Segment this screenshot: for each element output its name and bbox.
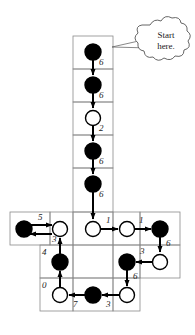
callout-line-1: Start xyxy=(149,30,183,40)
arrow-label-a1: 6 xyxy=(99,58,104,67)
arrow-label-a4: 6 xyxy=(99,157,104,166)
arrow-label-a10: 6 xyxy=(133,272,138,281)
arrow-label-a3: 2 xyxy=(99,124,104,133)
node-n15 xyxy=(85,287,101,303)
arrow-label-a12: 7 xyxy=(73,300,78,309)
node-n10 xyxy=(16,221,32,237)
arrow-label-a15: 5 xyxy=(38,213,43,222)
arrow-label-a14: 4 xyxy=(42,248,47,257)
node-n12 xyxy=(119,254,135,270)
arrow-label-a13: 0 xyxy=(42,281,47,290)
arrow-label-a7: 1 xyxy=(139,216,144,225)
node-n14 xyxy=(53,288,68,303)
node-n6 xyxy=(86,222,101,237)
arrow-label-a9: 3 xyxy=(140,247,145,256)
node-n8 xyxy=(152,221,168,237)
node-n16 xyxy=(120,288,135,303)
arrow-label-a6: 1 xyxy=(106,216,111,225)
node-n7 xyxy=(120,222,135,237)
arrow-label-a16: 3 xyxy=(52,235,57,244)
arrow-label-a11: 3 xyxy=(106,300,111,309)
node-n11 xyxy=(52,254,68,270)
callout-line-2: here. xyxy=(149,41,183,51)
arrow-label-a2: 6 xyxy=(99,91,104,100)
arrow-label-a8: 6 xyxy=(166,239,171,248)
arrow-label-a5: 6 xyxy=(99,190,104,199)
node-n13 xyxy=(153,255,168,270)
